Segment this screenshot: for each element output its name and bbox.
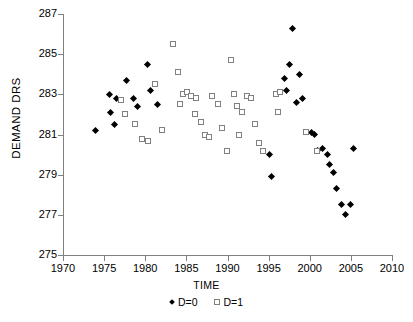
x-tick-label: 2010 xyxy=(372,263,412,274)
data-point xyxy=(130,95,137,102)
data-point xyxy=(111,121,118,128)
y-tick-label: 279 xyxy=(39,169,57,180)
x-tick-label: 1970 xyxy=(43,263,83,274)
chart-legend: D=0 D=1 xyxy=(0,296,413,308)
data-point xyxy=(132,121,138,127)
legend-item-d0: D=0 xyxy=(170,296,198,308)
y-tick-label: 283 xyxy=(39,88,57,99)
data-point xyxy=(224,148,230,154)
y-tick-label: 277 xyxy=(39,209,57,220)
y-tick-label: 287 xyxy=(39,8,57,19)
data-point xyxy=(314,148,320,154)
data-point xyxy=(323,151,330,158)
data-point xyxy=(92,127,99,134)
data-point xyxy=(193,95,199,101)
x-tick-mark xyxy=(351,256,352,261)
x-tick-label: 1975 xyxy=(84,263,124,274)
x-tick-label: 1980 xyxy=(125,263,165,274)
legend-item-d1: D=1 xyxy=(214,296,244,308)
data-point xyxy=(281,75,288,82)
y-tick-label: 275 xyxy=(39,249,57,260)
data-point xyxy=(266,151,273,158)
legend-label-d0: D=0 xyxy=(178,296,198,308)
data-point xyxy=(228,57,234,63)
x-tick-mark xyxy=(310,256,311,261)
data-point xyxy=(330,169,337,176)
data-point xyxy=(123,77,130,84)
data-point xyxy=(145,138,151,144)
data-point xyxy=(256,140,262,146)
data-point xyxy=(326,161,333,168)
data-point xyxy=(236,132,242,138)
x-tick-mark xyxy=(392,256,393,261)
x-tick-label: 2005 xyxy=(331,263,371,274)
x-tick-mark xyxy=(228,256,229,261)
x-tick-label: 1985 xyxy=(166,263,206,274)
legend-label-d1: D=1 xyxy=(224,296,244,308)
data-point xyxy=(275,109,281,115)
x-tick-mark xyxy=(269,256,270,261)
data-point xyxy=(277,89,283,95)
scatter-chart: 275277279281283285287 197019751980198519… xyxy=(0,0,413,322)
data-point xyxy=(107,109,114,116)
data-point xyxy=(311,131,318,138)
data-point xyxy=(248,95,254,101)
data-point xyxy=(133,103,140,110)
data-point xyxy=(303,129,309,135)
data-point xyxy=(170,41,176,47)
data-point xyxy=(144,61,151,68)
data-point xyxy=(338,201,345,208)
data-point xyxy=(159,127,165,133)
data-point xyxy=(239,109,245,115)
x-tick-label: 1995 xyxy=(249,263,289,274)
data-point xyxy=(296,71,303,78)
data-point xyxy=(219,125,225,131)
data-point xyxy=(177,101,183,107)
data-point xyxy=(252,121,258,127)
data-point xyxy=(286,61,293,68)
data-point xyxy=(283,87,290,94)
data-point xyxy=(342,211,349,218)
data-point xyxy=(154,101,161,108)
plot-area xyxy=(63,14,392,255)
data-point xyxy=(289,25,296,32)
data-point xyxy=(231,91,237,97)
data-point xyxy=(260,148,266,154)
data-point xyxy=(333,185,340,192)
x-tick-mark xyxy=(145,256,146,261)
x-tick-mark xyxy=(104,256,105,261)
data-point xyxy=(106,91,113,98)
data-point xyxy=(147,87,154,94)
data-point xyxy=(299,95,306,102)
x-tick-label: 2000 xyxy=(290,263,330,274)
data-point xyxy=(152,81,158,87)
data-point xyxy=(192,111,198,117)
x-tick-mark xyxy=(63,256,64,261)
data-point xyxy=(209,93,215,99)
data-point xyxy=(293,99,300,106)
open-square-icon xyxy=(214,299,220,305)
data-point xyxy=(215,101,221,107)
data-point xyxy=(206,134,212,140)
y-tick-label: 285 xyxy=(39,48,57,59)
x-tick-mark xyxy=(186,256,187,261)
filled-diamond-icon xyxy=(169,299,175,305)
data-point xyxy=(198,119,204,125)
y-axis-label: DEMAND DRS xyxy=(10,58,22,178)
x-tick-label: 1990 xyxy=(208,263,248,274)
x-axis-label: TIME xyxy=(0,279,413,291)
data-point xyxy=(122,111,128,117)
data-point xyxy=(350,145,357,152)
data-point xyxy=(118,97,124,103)
data-point xyxy=(347,201,354,208)
data-point xyxy=(268,173,275,180)
data-point xyxy=(175,69,181,75)
y-tick-label: 281 xyxy=(39,129,57,140)
